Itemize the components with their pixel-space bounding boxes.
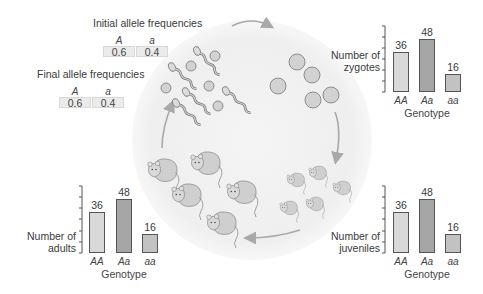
adults-xlabel: Genotype [89, 268, 159, 280]
juveniles-value-aa: 16 [441, 221, 465, 233]
zygotes-ylabel-line2: zygotes [322, 61, 380, 73]
zygotes-value-aa: 16 [441, 61, 465, 73]
zygotes-value-AA: 36 [389, 39, 413, 51]
adults-bar-AA [89, 212, 105, 253]
initial-freq-header-A: A [103, 35, 135, 46]
juveniles-xlabel: Genotype [392, 268, 462, 280]
juveniles-bar-aa [445, 234, 461, 253]
final-freq-header-a: a [92, 86, 124, 97]
juveniles-bar-AA [393, 212, 409, 253]
adults-ylabel: Number of adults [10, 230, 76, 254]
juveniles-cat-AA: AA [389, 256, 413, 267]
final-freq-value-A: 0.6 [59, 97, 91, 108]
adults-cat-AA: AA [85, 256, 109, 267]
adults-value-AA: 36 [85, 199, 109, 211]
adults-value-aa: 16 [138, 221, 162, 233]
initial-freq-header-a: a [136, 35, 168, 46]
zygotes-cat-Aa: Aa [415, 95, 439, 106]
final-freq-value-a: 0.4 [92, 97, 124, 108]
adults-ylabel-line1: Number of [10, 230, 76, 242]
zygotes-ylabel: Number of zygotes [322, 49, 380, 73]
zygotes-bar-Aa [419, 39, 435, 92]
adults-value-Aa: 48 [112, 186, 136, 198]
initial-freq-title: Initial allele frequencies [93, 17, 202, 29]
juveniles-ylabel-line2: juveniles [322, 242, 380, 254]
final-freq-title: Final allele frequencies [37, 68, 144, 80]
zygotes-ylabel-line1: Number of [322, 49, 380, 61]
zygotes-bar-AA [393, 52, 409, 92]
juveniles-value-AA: 36 [389, 199, 413, 211]
adults-ylabel-line2: adults [10, 242, 76, 254]
juveniles-ylabel-line1: Number of [322, 230, 380, 242]
juveniles-ylabel: Number of juveniles [322, 230, 380, 254]
final-freq-header-A: A [59, 86, 91, 97]
zygotes-bar-aa [445, 74, 461, 92]
initial-freq-value-a: 0.4 [136, 46, 168, 57]
adults-cat-aa: aa [138, 256, 162, 267]
juveniles-bar-Aa [419, 199, 435, 253]
initial-freq-value-A: 0.6 [103, 46, 135, 57]
zygotes-cat-AA: AA [389, 95, 413, 106]
zygotes-cat-aa: aa [441, 95, 465, 106]
juveniles-cat-aa: aa [441, 256, 465, 267]
adults-bar-Aa [116, 199, 132, 253]
adults-bar-aa [142, 234, 158, 253]
zygotes-value-Aa: 48 [415, 26, 439, 38]
juveniles-value-Aa: 48 [415, 186, 439, 198]
juveniles-cat-Aa: Aa [415, 256, 439, 267]
adults-cat-Aa: Aa [112, 256, 136, 267]
zygotes-xlabel: Genotype [392, 107, 462, 119]
